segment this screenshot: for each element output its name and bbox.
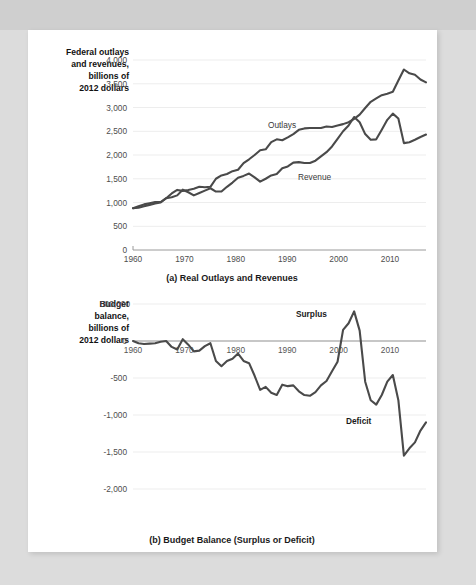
panel-b-side-title-line-3: billions of bbox=[88, 323, 129, 333]
y-tick-b-500000: 500,000 bbox=[100, 299, 130, 309]
y-tick-a-1500: 1,500 bbox=[106, 174, 127, 184]
panel-b-caption: (b) Budget Balance (Surplus or Deficit) bbox=[149, 535, 315, 545]
y-tick-b-minus1000: -1,000 bbox=[103, 410, 127, 420]
y-tick-b-minus2000: -2,000 bbox=[103, 484, 127, 494]
x-tick-a-1960: 1960 bbox=[124, 254, 143, 264]
backdrop-top-band bbox=[0, 0, 476, 30]
figure-sheet: Federal outlays and revenues, billions o… bbox=[28, 30, 437, 552]
y-tick-a-1000: 1,000 bbox=[106, 198, 127, 208]
x-tick-b-1980: 1980 bbox=[227, 345, 246, 355]
annotation-revenue: Revenue bbox=[298, 172, 332, 182]
panel-b-x-tick-labels: 1960 1970 1980 1990 2000 2010 bbox=[124, 345, 400, 355]
y-tick-a-3500: 3,500 bbox=[106, 79, 127, 89]
x-tick-b-1990: 1990 bbox=[278, 345, 297, 355]
annotation-outlays: Outlays bbox=[268, 120, 296, 130]
page-root: { "figure": { "panel_a": { "caption": "(… bbox=[0, 0, 476, 585]
annotation-surplus: Surplus bbox=[296, 309, 327, 319]
x-tick-a-1970: 1970 bbox=[175, 254, 194, 264]
y-tick-a-500: 500 bbox=[113, 221, 127, 231]
panel-a-x-tick-labels: 1960 1970 1980 1990 2000 2010 bbox=[124, 254, 400, 264]
series-line-budget-balance bbox=[133, 311, 426, 455]
y-tick-a-2000: 2,000 bbox=[106, 150, 127, 160]
y-tick-a-4000: 4,000 bbox=[106, 55, 127, 65]
y-tick-a-3000: 3,000 bbox=[106, 103, 127, 113]
panel-a-gridlines bbox=[133, 60, 426, 226]
y-tick-a-2500: 2,500 bbox=[106, 126, 127, 136]
x-tick-a-1990: 1990 bbox=[278, 254, 297, 264]
x-tick-b-2010: 2010 bbox=[381, 345, 400, 355]
x-tick-b-1960: 1960 bbox=[124, 345, 143, 355]
panel-a-caption: (a) Real Outlays and Revenues bbox=[166, 273, 298, 283]
panel-b-side-title-line-2: balance, bbox=[95, 311, 129, 321]
y-tick-b-minus1500: -1,500 bbox=[103, 447, 127, 457]
x-tick-a-2010: 2010 bbox=[381, 254, 400, 264]
annotation-deficit: Deficit bbox=[346, 416, 372, 426]
x-tick-a-1980: 1980 bbox=[227, 254, 246, 264]
chart-panel-b: Budget balance, billions of 2012 dollars… bbox=[28, 290, 437, 552]
chart-panel-a: Federal outlays and revenues, billions o… bbox=[28, 30, 437, 290]
y-tick-b-minus500: -500 bbox=[110, 373, 127, 383]
x-tick-a-2000: 2000 bbox=[329, 254, 348, 264]
panel-a-y-tick-labels: 0 500 1,000 1,500 2,000 2,500 3,000 3,50… bbox=[106, 55, 127, 255]
series-line-outlays bbox=[133, 70, 426, 209]
